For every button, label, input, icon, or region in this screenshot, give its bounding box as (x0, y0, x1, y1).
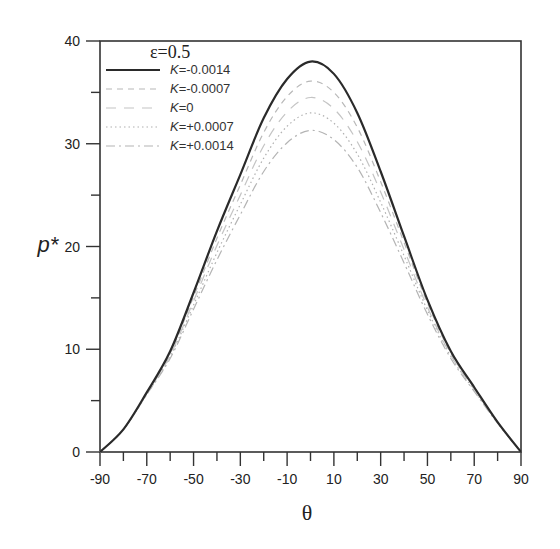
y-tick-label: 0 (72, 444, 80, 460)
legend-label: K=0 (170, 100, 194, 115)
series-line-3 (100, 113, 521, 452)
chart: -90-70-50-30-101030507090 010203040 θ p*… (0, 0, 560, 549)
series-line-0 (100, 61, 521, 452)
y-tick-label: 20 (64, 239, 80, 255)
legend-label: K=-0.0007 (170, 81, 230, 96)
y-tick-label: 30 (64, 136, 80, 152)
legend-label: K=+0.0007 (170, 119, 234, 134)
series-line-1 (100, 81, 521, 452)
x-tick-label: -50 (183, 471, 203, 487)
x-tick-label: -90 (90, 471, 110, 487)
x-tick-label: -30 (230, 471, 250, 487)
y-tick-label: 10 (64, 341, 80, 357)
series-lines (100, 61, 521, 452)
series-line-2 (100, 97, 521, 452)
x-tick-label: -10 (277, 471, 297, 487)
y-axis-ticks: 010203040 (64, 33, 100, 460)
x-axis-title: θ (302, 500, 313, 525)
series-line-4 (100, 130, 521, 452)
x-tick-label: 90 (513, 471, 529, 487)
plot-frame (100, 41, 521, 452)
x-tick-label: -70 (137, 471, 157, 487)
x-tick-label: 10 (326, 471, 342, 487)
x-tick-label: 30 (373, 471, 389, 487)
legend-label: K=-0.0014 (170, 62, 230, 77)
y-tick-label: 40 (64, 33, 80, 49)
legend: ε=0.5 K=-0.0014K=-0.0007K=0K=+0.0007K=+0… (106, 42, 234, 153)
y-axis-title: p* (37, 232, 60, 257)
x-tick-label: 70 (466, 471, 482, 487)
legend-annotation: ε=0.5 (150, 42, 190, 62)
legend-label: K=+0.0014 (170, 138, 234, 153)
x-axis-ticks: -90-70-50-30-101030507090 (90, 452, 529, 487)
x-tick-label: 50 (420, 471, 436, 487)
